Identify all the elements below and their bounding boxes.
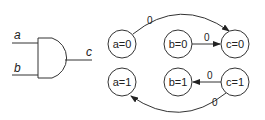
node-b0: b=0 xyxy=(164,30,192,58)
node-c1: c=1 xyxy=(221,68,249,96)
edge-c1-a1-label: 0 xyxy=(212,97,218,108)
input-b-label: b xyxy=(14,61,21,75)
svg-text:a=0: a=0 xyxy=(113,38,132,50)
node-c0: c=0 xyxy=(221,30,249,58)
and-gate: a b c xyxy=(12,28,92,78)
svg-text:c=0: c=0 xyxy=(226,38,244,50)
edge-c1-b1-label: 0 xyxy=(207,70,213,81)
node-a1: a=1 xyxy=(108,68,136,96)
graph-nodes: a=0 b=0 c=0 a=1 b=1 c=1 xyxy=(108,30,249,96)
edge-b0-c0-label: 0 xyxy=(204,32,210,43)
graph-edges: 0 0 0 0 xyxy=(131,14,229,112)
edge-a0-c0-label: 0 xyxy=(147,15,153,26)
output-c-label: c xyxy=(86,45,92,59)
svg-text:c=1: c=1 xyxy=(226,76,244,88)
and-gate-body xyxy=(38,38,67,78)
svg-text:b=0: b=0 xyxy=(169,38,188,50)
diagram-canvas: a b c 0 0 0 0 a=0 b=0 c=0 a=1 xyxy=(0,0,265,120)
node-a0: a=0 xyxy=(108,30,136,58)
node-b1: b=1 xyxy=(164,68,192,96)
svg-text:b=1: b=1 xyxy=(169,76,188,88)
input-a-label: a xyxy=(14,28,21,42)
svg-text:a=1: a=1 xyxy=(113,76,132,88)
